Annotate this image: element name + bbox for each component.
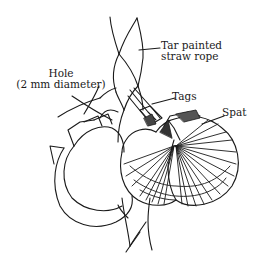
rope-label: Tar painted straw rope bbox=[161, 40, 222, 62]
rope-pointer-line bbox=[139, 48, 160, 50]
rope-label-line2: straw rope bbox=[161, 51, 222, 62]
tags-label: Tags bbox=[172, 91, 197, 102]
hole-label: Hole (2 mm diameter) bbox=[14, 68, 108, 90]
hole-wire bbox=[58, 86, 116, 120]
spat-ribs bbox=[124, 120, 236, 206]
spat-label: Spat bbox=[222, 107, 246, 118]
hole-label-line2: (2 mm diameter) bbox=[14, 79, 108, 90]
